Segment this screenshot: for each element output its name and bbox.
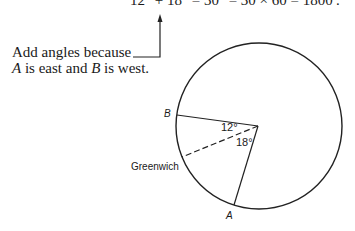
- annotation-line-2: A is east and B is west.: [12, 60, 149, 77]
- equation-text: 12° + 18° = 30° = 30 × 60 = 1800′.: [130, 0, 340, 9]
- angle-12-label: 12°: [221, 121, 238, 133]
- earth-circle: [176, 43, 342, 209]
- point-a-label: A: [226, 210, 233, 221]
- greenwich-label: Greenwich: [131, 161, 179, 172]
- point-a-ref: A: [12, 60, 21, 76]
- point-b-ref: B: [91, 60, 100, 76]
- radius-to-b: [177, 115, 258, 126]
- pointer-arrow-line: [133, 20, 160, 57]
- angle-18-label: 18°: [236, 136, 253, 148]
- annotation-text-end: is west.: [100, 60, 149, 76]
- diagram-canvas: [0, 0, 355, 231]
- point-b-label: B: [164, 108, 171, 119]
- annotation-text: is east and: [21, 60, 91, 76]
- annotation-line-1: Add angles because: [12, 44, 131, 61]
- arrow-head-icon: [158, 14, 163, 22]
